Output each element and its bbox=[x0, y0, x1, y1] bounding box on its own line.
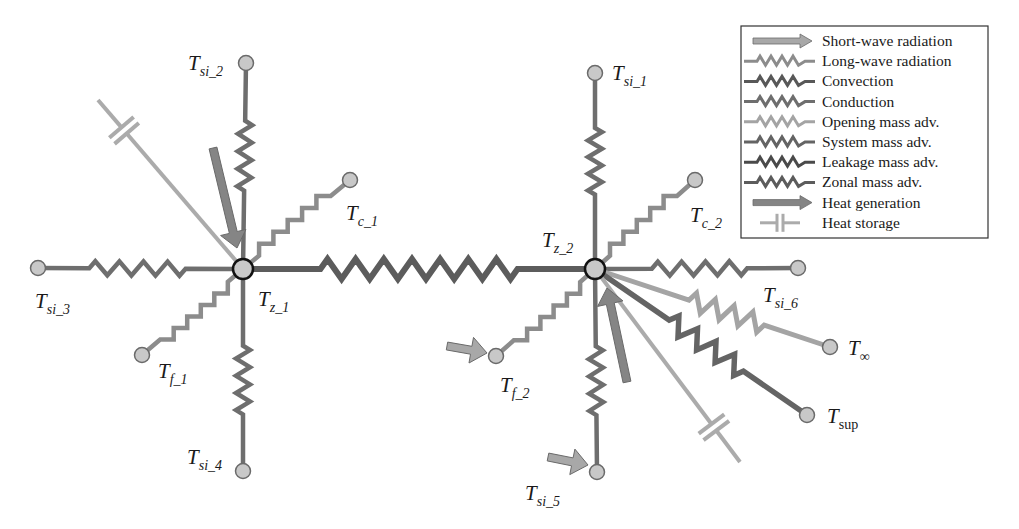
node-tc2 bbox=[688, 173, 703, 188]
short-wave-arrow-tsi5 bbox=[547, 449, 588, 475]
legend: Short-wave radiationLong-wave radiationC… bbox=[741, 26, 988, 238]
label-tsi4: Tsi_4 bbox=[187, 445, 222, 473]
node-tinf bbox=[823, 340, 838, 355]
legend-label: Long-wave radiation bbox=[822, 52, 952, 69]
legend-label: Heat generation bbox=[822, 194, 921, 211]
link-conduction-tz2-tsi1 bbox=[588, 73, 602, 269]
node-tsi2 bbox=[239, 56, 254, 71]
links-layer bbox=[38, 63, 830, 472]
node-tf2 bbox=[489, 349, 504, 364]
node-tsi5 bbox=[590, 465, 605, 480]
node-tz1 bbox=[233, 259, 253, 279]
node-tsi6 bbox=[791, 261, 806, 276]
label-tsi2: Tsi_2 bbox=[188, 51, 223, 79]
legend-label: Opening mass adv. bbox=[822, 113, 939, 130]
legend-label: Leakage mass adv. bbox=[822, 153, 939, 170]
label-tz2: Tz_2 bbox=[542, 228, 573, 256]
node-tsi4 bbox=[236, 464, 251, 479]
link-conduction-tz1-tsi4 bbox=[236, 269, 250, 471]
legend-label: Heat storage bbox=[822, 214, 900, 231]
legend-label: Convection bbox=[822, 72, 894, 89]
label-tf1: Tf_1 bbox=[158, 359, 188, 387]
legend-label: Zonal mass adv. bbox=[822, 173, 922, 190]
short-wave-arrow-tf2 bbox=[446, 337, 487, 363]
node-tc1 bbox=[343, 173, 358, 188]
node-tsi3 bbox=[31, 261, 46, 276]
link-zonal-tz1-tz2 bbox=[243, 259, 595, 279]
thermal-network-diagram: Tz_1Tz_2Tsi_1Tsi_2Tsi_3Tsi_4Tsi_5Tsi_6Tc… bbox=[0, 0, 1019, 529]
label-tsi5: Tsi_5 bbox=[525, 481, 560, 509]
node-tf1 bbox=[135, 348, 150, 363]
link-system-tz2-tsup bbox=[595, 269, 807, 415]
label-tc1: Tc_1 bbox=[346, 201, 378, 229]
label-tsup: Tsup bbox=[827, 404, 858, 432]
label-tc2: Tc_2 bbox=[690, 203, 722, 231]
label-tsi6: Tsi_6 bbox=[763, 283, 798, 311]
label-tinf: T∞ bbox=[848, 336, 870, 364]
link-long_wave-tz1-tf1 bbox=[142, 269, 243, 355]
link-conduction-tz1-tsi3 bbox=[38, 261, 243, 275]
link-long_wave-tz2-tc2 bbox=[595, 180, 695, 269]
label-tf2: Tf_2 bbox=[500, 373, 530, 401]
legend-label: Conduction bbox=[822, 93, 895, 110]
legend-label: Short-wave radiation bbox=[822, 32, 953, 49]
label-tsi1: Tsi_1 bbox=[612, 61, 647, 89]
node-tz2 bbox=[585, 259, 605, 279]
label-tz1: Tz_1 bbox=[258, 287, 289, 315]
node-tsi1 bbox=[588, 66, 603, 81]
link-long_wave-tz1-tc1 bbox=[243, 180, 350, 269]
label-tsi3: Tsi_3 bbox=[35, 289, 70, 317]
link-conduction-tz2-tsi6 bbox=[595, 261, 798, 275]
node-tsup bbox=[800, 408, 815, 423]
legend-label: System mass adv. bbox=[822, 133, 932, 150]
